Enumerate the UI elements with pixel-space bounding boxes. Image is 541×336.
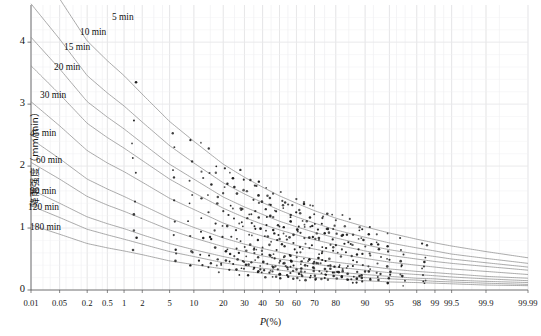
data-point <box>132 249 135 252</box>
data-point <box>321 251 323 253</box>
curve-label-10-min: 10 min <box>80 27 106 37</box>
data-point <box>337 252 339 254</box>
curve-label-180-min: 180 min <box>30 222 61 232</box>
data-point <box>339 264 341 266</box>
data-point <box>238 252 240 254</box>
data-point <box>175 252 177 254</box>
data-point <box>376 262 378 264</box>
data-point <box>245 255 247 257</box>
data-point <box>362 239 365 242</box>
data-point <box>289 272 291 274</box>
data-point <box>274 265 276 267</box>
data-point <box>273 253 275 255</box>
data-point <box>291 204 293 206</box>
data-point <box>258 202 260 204</box>
data-point <box>314 274 317 277</box>
data-point <box>275 210 277 212</box>
data-point <box>335 232 337 234</box>
data-point <box>280 191 282 193</box>
data-point <box>289 254 291 256</box>
data-point <box>325 247 327 249</box>
data-point <box>341 276 344 279</box>
data-point <box>404 280 406 282</box>
data-point <box>304 264 307 267</box>
data-point <box>189 264 191 266</box>
data-point <box>202 177 204 179</box>
data-point <box>249 179 251 181</box>
data-point <box>292 233 295 236</box>
data-point <box>255 249 257 251</box>
data-point <box>251 235 253 237</box>
data-point <box>254 259 256 261</box>
data-point <box>266 195 269 198</box>
data-point <box>290 266 292 268</box>
data-point <box>351 255 353 257</box>
data-point <box>332 275 335 278</box>
data-point <box>259 268 261 270</box>
data-point <box>422 274 424 276</box>
data-point <box>309 216 312 219</box>
data-point <box>243 268 245 270</box>
data-point <box>248 234 250 236</box>
data-point <box>266 263 268 265</box>
data-point <box>282 262 284 264</box>
curve-label-60-min: 60 min <box>36 155 62 165</box>
data-point <box>172 169 174 171</box>
data-point <box>321 272 323 274</box>
data-point <box>329 244 331 246</box>
data-point <box>376 242 378 244</box>
data-point <box>362 264 364 266</box>
data-point <box>307 265 309 267</box>
data-point <box>309 226 311 228</box>
data-point <box>302 248 304 250</box>
data-point <box>257 216 260 219</box>
data-point <box>295 211 297 213</box>
data-point <box>426 244 428 246</box>
data-point <box>263 269 265 271</box>
data-point <box>207 266 209 268</box>
data-point <box>287 268 289 270</box>
data-point <box>295 198 297 200</box>
data-point <box>294 248 296 250</box>
data-point <box>278 273 281 276</box>
data-point <box>347 241 349 243</box>
data-point <box>369 226 371 228</box>
data-point <box>266 216 268 218</box>
data-point <box>318 239 320 241</box>
data-point <box>266 235 269 238</box>
data-point <box>253 268 255 270</box>
data-point <box>316 232 318 234</box>
curve-label-20-min: 20 min <box>54 62 80 72</box>
data-point <box>239 169 241 171</box>
data-point <box>341 270 344 273</box>
data-point <box>310 275 312 277</box>
data-point <box>236 192 239 195</box>
data-point <box>272 276 274 278</box>
data-point <box>225 250 228 253</box>
x-tick-95: 95 <box>385 298 394 308</box>
data-point <box>258 180 260 182</box>
data-point <box>200 217 202 219</box>
data-point <box>262 261 265 264</box>
data-point <box>344 225 346 227</box>
data-point <box>269 254 272 257</box>
data-point <box>254 210 256 212</box>
data-point <box>281 243 283 245</box>
data-point <box>353 276 355 278</box>
data-point <box>265 208 267 210</box>
x-tick-10: 10 <box>190 298 199 308</box>
data-point <box>281 200 283 202</box>
x-tick-0.01: 0.01 <box>23 298 38 308</box>
data-point <box>388 259 390 261</box>
data-point <box>303 237 305 239</box>
data-point <box>336 277 338 279</box>
data-point <box>352 234 354 236</box>
data-point <box>386 245 388 247</box>
data-point <box>265 224 267 226</box>
data-point <box>245 263 248 266</box>
data-point <box>309 277 311 279</box>
data-point <box>174 260 177 263</box>
data-point <box>259 227 262 230</box>
data-point <box>387 250 389 252</box>
data-point <box>399 273 401 275</box>
